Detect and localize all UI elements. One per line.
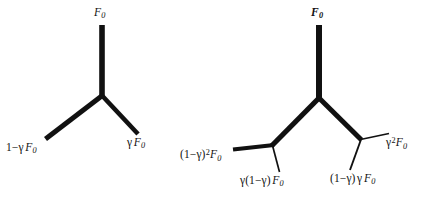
- label-b1-prefix: (1−: [180, 148, 196, 160]
- label-b4-symbol: F: [396, 136, 403, 148]
- right-diagram-left-main-branch: [272, 97, 321, 146]
- label-right-trunk-symbol: F: [311, 6, 319, 18]
- right-diagram-right-outer-branch: [361, 134, 390, 140]
- label-right-trunk-subscript: 0: [319, 11, 323, 20]
- label-b2-symbol: F: [272, 174, 279, 186]
- gamma-symbol: γ: [18, 141, 23, 153]
- label-left-trunk-subscript: 0: [101, 11, 105, 20]
- branch-lines-svg: [0, 0, 422, 201]
- label-b2-prefix: (1−: [245, 174, 261, 186]
- label-b3-mid: ): [352, 172, 356, 184]
- label-b3-prefix: (1−: [330, 172, 346, 184]
- label-b2-subscript: 0: [280, 179, 284, 188]
- label-b1-mid: ): [202, 148, 206, 160]
- label-b3-symbol: F: [364, 172, 371, 184]
- label-left-diagram-left-branch: 1−γF0: [6, 142, 37, 155]
- label-right-diagram-branch-2: γ(1−γ)F0: [240, 175, 284, 188]
- label-b4-subscript: 0: [403, 142, 407, 151]
- label-left-right-symbol: F: [134, 136, 141, 148]
- label-left-left-subscript: 0: [33, 146, 37, 155]
- label-b3-subscript: 0: [371, 177, 375, 186]
- label-left-left-symbol: F: [25, 141, 32, 153]
- right-diagram-right-main-branch: [318, 97, 362, 140]
- label-right-diagram-trunk: F0: [311, 7, 323, 20]
- branching-force-diagram-figure: F0 1−γF0 γF0 F0 (1−γ)2F0 γ(1−γ)F0 (1−γ)γ…: [0, 0, 422, 201]
- right-diagram-left-outer-branch: [233, 145, 274, 150]
- right-diagram-right-inner-branch: [350, 140, 361, 171]
- label-b1-subscript: 0: [217, 154, 221, 163]
- label-left-right-subscript: 0: [141, 141, 145, 150]
- left-diagram-right-branch: [102, 95, 139, 134]
- label-left-diagram-trunk: F0: [94, 7, 106, 20]
- label-left-left-prefix: 1−: [6, 141, 18, 153]
- left-diagram-left-branch: [46, 95, 104, 139]
- label-right-diagram-branch-1: (1−γ)2F0: [180, 149, 222, 163]
- label-right-diagram-branch-3: (1−γ)γF0: [330, 173, 375, 186]
- label-left-diagram-right-branch: γF0: [127, 137, 145, 150]
- label-right-diagram-branch-4: γ2F0: [386, 137, 407, 151]
- right-diagram-left-inner-branch: [273, 146, 280, 173]
